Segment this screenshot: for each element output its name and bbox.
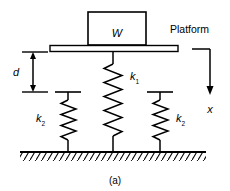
ground-group bbox=[20, 152, 206, 161]
spring-k1-coil bbox=[104, 64, 122, 136]
mass-label: W bbox=[112, 27, 124, 39]
spring-k2-right-label: k2 bbox=[176, 112, 186, 127]
spring-k2-left-label: k2 bbox=[36, 112, 46, 127]
spring-k2-left-group: k2 bbox=[36, 92, 81, 152]
displacement-axis-arrowhead bbox=[207, 86, 214, 95]
spring-k1-label: k1 bbox=[130, 70, 140, 85]
dimension-d-label: d bbox=[13, 66, 20, 78]
platform-label: Platform bbox=[170, 23, 209, 35]
mass-block-group: W bbox=[88, 12, 146, 45]
displacement-axis-group: x bbox=[192, 49, 214, 115]
ground-hatching bbox=[20, 152, 206, 161]
spring-system-diagram: W Platform k1 k bbox=[0, 0, 230, 191]
spring-k2-right-coil bbox=[153, 100, 168, 140]
dimension-d-group: d bbox=[13, 52, 48, 92]
displacement-axis-label: x bbox=[206, 103, 213, 115]
spring-k1-group: k1 bbox=[104, 52, 140, 153]
figure-container: W Platform k1 k bbox=[0, 0, 230, 191]
platform-bar bbox=[50, 46, 178, 52]
dimension-d-arrowhead-up bbox=[30, 52, 36, 59]
figure-caption: (a) bbox=[109, 175, 121, 186]
dimension-d-arrowhead-down bbox=[30, 85, 36, 92]
spring-k2-right-group: k2 bbox=[147, 92, 186, 152]
spring-k2-left-coil bbox=[61, 100, 76, 140]
